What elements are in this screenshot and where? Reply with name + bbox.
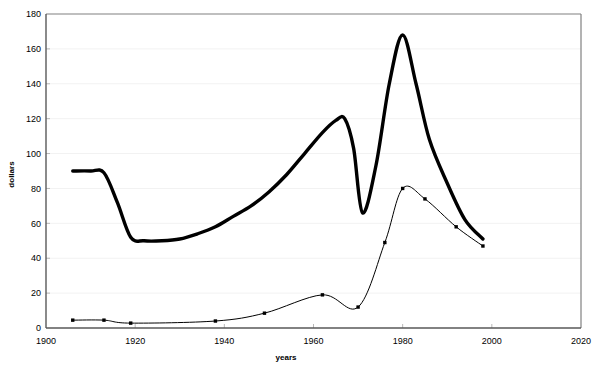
series-markers: [71, 187, 485, 325]
data-point-marker: [481, 244, 484, 247]
series-lines: [73, 35, 483, 323]
data-point-marker: [263, 311, 266, 314]
data-point-marker: [102, 318, 105, 321]
data-point-marker: [401, 187, 404, 190]
y-tick-label: 0: [36, 323, 41, 333]
x-tick-label: 2000: [482, 336, 502, 346]
x-tick-label: 2020: [571, 336, 591, 346]
series-line-thick-series: [73, 35, 483, 241]
data-point-marker: [129, 321, 132, 324]
y-tick-label: 40: [31, 253, 41, 263]
y-tick-labels: 020406080100120140160180: [26, 9, 41, 333]
x-tick-label: 1980: [393, 336, 413, 346]
y-tick-label: 80: [31, 184, 41, 194]
data-point-marker: [423, 197, 426, 200]
data-point-marker: [214, 319, 217, 322]
plot-frame: [46, 14, 581, 328]
gridlines: [46, 49, 581, 328]
data-point-marker: [321, 293, 324, 296]
y-tick-label: 120: [26, 114, 41, 124]
x-tick-label: 1900: [36, 336, 56, 346]
line-chart-plot: 020406080100120140160180 190019201940196…: [0, 0, 600, 374]
y-tick-label: 60: [31, 219, 41, 229]
x-axis-title: years: [0, 353, 600, 362]
y-tick-label: 140: [26, 79, 41, 89]
data-point-marker: [454, 225, 457, 228]
data-point-marker: [383, 241, 386, 244]
y-tick-label: 20: [31, 288, 41, 298]
x-tick-label: 1960: [303, 336, 323, 346]
y-tick-label: 160: [26, 44, 41, 54]
y-tick-label: 180: [26, 9, 41, 19]
series-line-thin-series: [73, 186, 483, 323]
x-axis-title-text: years: [276, 353, 297, 362]
chart-container: 020406080100120140160180 190019201940196…: [0, 0, 600, 374]
data-point-marker: [71, 318, 74, 321]
x-tick-label: 1920: [125, 336, 145, 346]
x-tick-labels: 1900192019401960198020002020: [36, 336, 591, 346]
y-tick-label: 100: [26, 149, 41, 159]
data-point-marker: [356, 305, 359, 308]
x-tick-label: 1940: [214, 336, 234, 346]
